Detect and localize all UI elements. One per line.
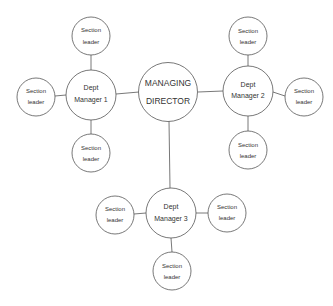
section-leader-node: Section leader bbox=[208, 194, 246, 232]
section-leader-label-2: leader bbox=[28, 99, 45, 105]
dept-manager-3-node: Dept Manager 3 bbox=[146, 188, 196, 238]
dept-manager-3-label-2: Manager 3 bbox=[154, 215, 188, 223]
section-leader-label-1: Section bbox=[294, 88, 314, 94]
dept-manager-1-label-2: Manager 1 bbox=[74, 96, 108, 104]
managing-director-label-1: MANAGING bbox=[145, 78, 191, 88]
section-leader-label-1: Section bbox=[26, 88, 46, 94]
dept-manager-2-label-2: Manager 2 bbox=[231, 92, 265, 100]
section-leader-label-1: Section bbox=[162, 263, 182, 269]
section-leader-label-1: Section bbox=[238, 142, 258, 148]
section-leader-label-2: leader bbox=[219, 215, 236, 221]
dept-manager-2-node: Dept Manager 2 bbox=[223, 66, 273, 116]
section-leader-label-1: Section bbox=[81, 27, 101, 33]
section-leader-label-2: leader bbox=[240, 39, 257, 45]
dept-manager-3-label-1: Dept bbox=[164, 203, 179, 211]
section-leader-label-1: Section bbox=[238, 28, 258, 34]
section-leader-label-1: Section bbox=[105, 206, 125, 212]
section-leader-node: Section leader bbox=[285, 78, 323, 116]
section-leader-label-1: Section bbox=[81, 145, 101, 151]
section-leader-node: Section leader bbox=[72, 17, 110, 55]
section-leader-node: Section leader bbox=[229, 131, 267, 169]
section-leader-node: Section leader bbox=[153, 252, 191, 290]
section-leader-label-1: Section bbox=[217, 204, 237, 210]
section-leader-label-2: leader bbox=[240, 153, 257, 159]
dept-manager-1-node: Dept Manager 1 bbox=[66, 70, 116, 120]
section-leader-node: Section leader bbox=[17, 78, 55, 116]
section-leader-node: Section leader bbox=[229, 17, 267, 55]
section-leader-label-2: leader bbox=[296, 99, 313, 105]
dept-manager-2-label-1: Dept bbox=[241, 81, 256, 89]
section-leader-node: Section leader bbox=[96, 196, 134, 234]
org-diagram: MANAGING DIRECTOR Dept Manager 1 Dept Ma… bbox=[0, 0, 333, 306]
section-leader-label-2: leader bbox=[164, 274, 181, 280]
section-leader-label-2: leader bbox=[83, 156, 100, 162]
managing-director-node: MANAGING DIRECTOR bbox=[139, 63, 198, 122]
section-leader-node: Section leader bbox=[72, 134, 110, 172]
section-leader-label-2: leader bbox=[83, 39, 100, 45]
section-leader-label-2: leader bbox=[107, 217, 124, 223]
dept-manager-1-label-1: Dept bbox=[84, 84, 99, 92]
managing-director-label-2: DIRECTOR bbox=[146, 96, 190, 106]
